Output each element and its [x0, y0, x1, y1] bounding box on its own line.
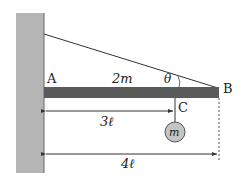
angle-arc	[178, 76, 180, 88]
label-point-a: A	[46, 71, 57, 86]
beam-diagram: A 2m θ B C m 3ℓ 4ℓ	[0, 0, 244, 182]
label-dimension-3l: 3ℓ	[100, 114, 114, 129]
beam-bar	[44, 87, 219, 98]
label-point-b: B	[223, 81, 233, 96]
label-angle-theta: θ	[164, 72, 172, 86]
label-point-c: C	[178, 100, 188, 115]
label-bar-mass: 2m	[111, 71, 133, 86]
label-hanging-mass: m	[169, 126, 179, 139]
label-dimension-4l: 4ℓ	[120, 156, 135, 171]
wall	[16, 13, 44, 173]
